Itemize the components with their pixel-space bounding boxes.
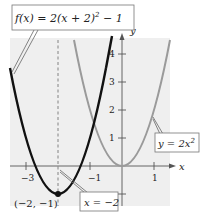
vertex-point <box>55 191 61 197</box>
tick-label-x-neg3: −3 <box>21 173 35 183</box>
x-axis-arrow-icon <box>169 164 176 169</box>
x-axis-label: x <box>179 161 185 172</box>
svg-text:y = 2x2: y = 2x2 <box>157 137 195 149</box>
f-label-text: f(x) = 2(x + 2) <box>14 12 95 25</box>
symmetry-label-text: x = −2 <box>84 197 119 208</box>
tick-label-y-2: 2 <box>109 105 115 115</box>
tick-label-x-neg1: −1 <box>88 173 101 183</box>
vertex-label: (−2, −1) <box>14 198 58 209</box>
svg-text:f(x) = 2(x + 2)2 − 1: f(x) = 2(x + 2)2 − 1 <box>14 11 123 25</box>
g-label-exponent: 2 <box>189 137 195 145</box>
tick-label-x-1: 1 <box>152 173 158 183</box>
graph: x y −3 −1 1 4 3 2 1 f(x) = 2(x + 2)2 − 1 <box>0 0 200 217</box>
y-axis-arrow-icon <box>120 33 125 40</box>
f-label-suffix: − 1 <box>100 12 123 25</box>
tick-label-y-3: 3 <box>109 77 115 87</box>
g-label-text: y = 2x <box>157 138 191 149</box>
tick-label-y-1: 1 <box>109 133 115 143</box>
